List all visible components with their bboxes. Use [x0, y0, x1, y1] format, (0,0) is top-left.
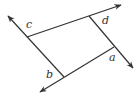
- label-b: b: [46, 68, 53, 81]
- label-d: d: [102, 14, 109, 27]
- angle-diagram: c d a b: [0, 0, 137, 104]
- label-c: c: [26, 18, 32, 31]
- label-a: a: [109, 51, 116, 64]
- left-line: [8, 16, 64, 77]
